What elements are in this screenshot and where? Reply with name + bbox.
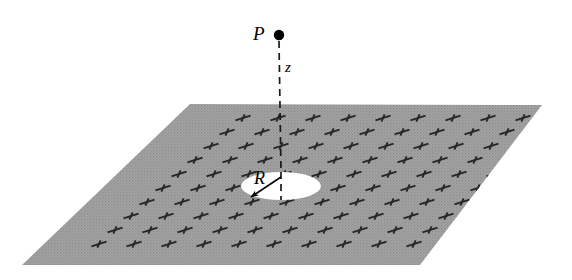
- point-p-label: P: [253, 24, 265, 43]
- figure-canvas: [0, 0, 572, 280]
- physics-figure-charged-plane-with-hole: P z R: [0, 0, 572, 280]
- plus-charge-icon: [535, 128, 550, 135]
- plus-charge-icon: [519, 142, 534, 149]
- point-p-dot: [274, 30, 284, 40]
- plus-charge-icon: [503, 156, 518, 163]
- z-distance-label: z: [285, 60, 291, 75]
- radius-label: R: [254, 169, 265, 187]
